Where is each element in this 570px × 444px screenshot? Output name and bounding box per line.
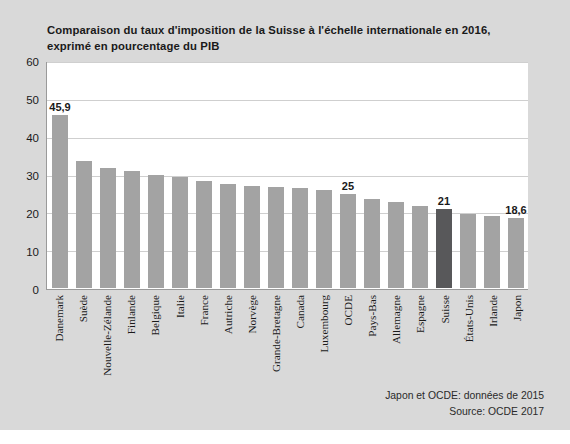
footnote-note: Japon et OCDE: données de 2015 [385, 388, 544, 404]
bar[interactable] [148, 175, 163, 288]
x-axis-label-slot: France [192, 293, 216, 385]
bar-slot [192, 62, 216, 288]
x-axis-label: États-Unis [463, 295, 475, 342]
x-axis-label: Nouvelle-Zélande [101, 295, 113, 376]
bar[interactable] [316, 190, 331, 288]
bar-slot [312, 62, 336, 288]
x-axis-label-slot: Autriche [216, 293, 240, 385]
x-axis-label: Suède [77, 295, 89, 322]
x-axis-label-slot: Danemark [47, 293, 71, 385]
y-axis-tick-label: 10 [26, 246, 39, 258]
footnote-source: Source: OCDE 2017 [385, 404, 544, 420]
x-axis-label-slot: Allemagne [384, 293, 408, 385]
y-axis-tick-label: 40 [26, 132, 39, 144]
x-axis-label-slot: Pays-Bas [360, 293, 384, 385]
bar-slot: 45,9 [48, 62, 72, 288]
x-axis-label: Belgique [149, 295, 161, 335]
bar-value-label: 18,6 [505, 204, 526, 216]
x-axis-label-slot: OCDE [336, 293, 360, 385]
x-axis-label-slot: États-Unis [457, 293, 481, 385]
bar-value-label: 25 [342, 180, 354, 192]
bar[interactable]: 18,6 [508, 218, 523, 288]
y-axis-tick-label: 50 [26, 94, 39, 106]
x-axis-label: Italie [174, 295, 186, 318]
bar[interactable] [460, 214, 475, 288]
bar[interactable] [412, 206, 427, 288]
x-axis-label: Danemark [53, 295, 65, 342]
bar-slot [144, 62, 168, 288]
y-axis-tick-label: 30 [26, 170, 39, 182]
x-axis-label: Suisse [439, 295, 451, 324]
x-axis-label-slot: Canada [288, 293, 312, 385]
bar[interactable] [268, 187, 283, 288]
chart-figure: Comparaison du taux d'imposition de la S… [0, 0, 570, 430]
x-axis-labels: DanemarkSuèdeNouvelle-ZélandeFinlandeBel… [47, 293, 529, 385]
x-axis-label: Pays-Bas [366, 295, 378, 337]
x-axis-label-slot: Finlande [119, 293, 143, 385]
x-axis-label: Finlande [125, 295, 137, 334]
bar[interactable] [76, 161, 91, 288]
bar[interactable] [292, 188, 307, 288]
bar[interactable] [364, 199, 379, 288]
x-axis-label: Autriche [222, 295, 234, 334]
y-axis-tick-label: 60 [26, 56, 39, 68]
bar-slot [168, 62, 192, 288]
bar-slot [480, 62, 504, 288]
bar-slot [120, 62, 144, 288]
bar-slot [264, 62, 288, 288]
bar[interactable] [172, 177, 187, 288]
bar[interactable]: 25 [340, 194, 355, 288]
y-axis-tick-label: 0 [33, 284, 39, 296]
chart-footnotes: Japon et OCDE: données de 2015 Source: O… [385, 388, 544, 419]
x-axis-label: OCDE [342, 295, 354, 325]
bar-slot: 18,6 [504, 62, 528, 288]
bar-slot: 25 [336, 62, 360, 288]
bar[interactable] [244, 186, 259, 288]
bar-slot [240, 62, 264, 288]
bar-slot [216, 62, 240, 288]
x-axis-label-slot: Nouvelle-Zélande [95, 293, 119, 385]
bar-value-label: 45,9 [49, 101, 70, 113]
x-axis-label-slot: Suède [71, 293, 95, 385]
bar[interactable] [484, 216, 499, 288]
bar[interactable] [100, 168, 115, 288]
bar-slot [408, 62, 432, 288]
y-axis-tick-label: 20 [26, 208, 39, 220]
bar-slot [96, 62, 120, 288]
bar-slot [456, 62, 480, 288]
bar-value-label: 21 [438, 195, 450, 207]
plot-area: 45,9252118,6 [46, 62, 528, 290]
bar-slot [72, 62, 96, 288]
bar[interactable]: 21 [436, 209, 451, 288]
bar[interactable] [124, 171, 139, 288]
x-axis-label: Grande-Bretagne [270, 295, 282, 372]
bar[interactable] [388, 202, 403, 288]
x-axis-label: Irlande [487, 295, 499, 327]
chart-title: Comparaison du taux d'imposition de la S… [47, 22, 527, 55]
x-axis-label-slot: Belgique [143, 293, 167, 385]
x-axis-label-slot: Norvège [240, 293, 264, 385]
x-axis-label-slot: Irlande [481, 293, 505, 385]
x-axis-label: Canada [294, 295, 306, 329]
x-axis-label-slot: Italie [167, 293, 191, 385]
x-axis-label-slot: Suisse [433, 293, 457, 385]
bar[interactable] [196, 181, 211, 288]
x-axis-label: France [198, 295, 210, 325]
x-axis-label: Allemagne [390, 295, 402, 344]
x-axis-label-slot: Espagne [408, 293, 432, 385]
x-axis-label-slot: Grande-Bretagne [264, 293, 288, 385]
x-axis-label-slot: Luxembourg [312, 293, 336, 385]
bar-slot [288, 62, 312, 288]
x-axis-label: Espagne [414, 295, 426, 333]
bar-slot: 21 [432, 62, 456, 288]
bar[interactable] [220, 184, 235, 288]
x-axis-label: Japon [511, 295, 523, 321]
bars-group: 45,9252118,6 [48, 62, 528, 288]
bar-slot [384, 62, 408, 288]
plot-wrapper: 45,9252118,6 6050403020100 [46, 62, 528, 290]
x-axis-label: Norvège [246, 295, 258, 334]
bar[interactable]: 45,9 [52, 115, 67, 288]
bar-slot [360, 62, 384, 288]
x-axis-label: Luxembourg [318, 295, 330, 353]
x-axis-label-slot: Japon [505, 293, 529, 385]
